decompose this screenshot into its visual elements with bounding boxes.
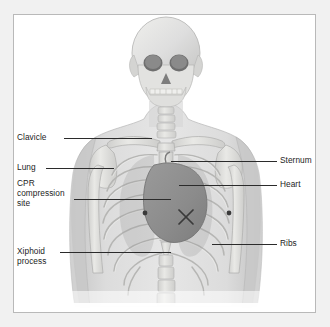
skeleton-illustration <box>14 15 316 313</box>
leader-line-sternum <box>171 161 277 162</box>
nipple-marker-right <box>227 211 232 216</box>
leader-line-ribs <box>212 244 277 245</box>
label-cpr-compression-site: CPR compression site <box>17 178 65 209</box>
label-sternum: Sternum <box>280 155 312 165</box>
label-clavicle: Clavicle <box>17 132 46 142</box>
skull <box>130 17 203 107</box>
leader-line-cpr-compression <box>74 199 171 200</box>
label-lung: Lung <box>17 162 36 172</box>
label-xiphoid-process: Xiphoid process <box>17 246 46 266</box>
nipple-marker-left <box>143 211 148 216</box>
leader-line-lung <box>46 168 114 169</box>
leader-line-heart <box>179 185 277 186</box>
illustration-panel <box>13 14 316 313</box>
label-heart: Heart <box>280 179 301 189</box>
figure-root: Clavicle Lung CPR compression site Xipho… <box>0 0 330 327</box>
leader-line-clavicle <box>64 138 152 139</box>
leader-line-xiphoid <box>60 252 171 253</box>
label-ribs: Ribs <box>280 238 297 248</box>
manubrium <box>157 143 175 151</box>
